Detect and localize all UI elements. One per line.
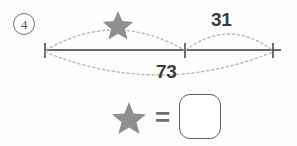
jump-arc-known [186,34,272,50]
star-icon-jump-label [103,11,133,40]
answer-equation-row: = [112,94,221,139]
star-icon-answer [112,100,146,134]
jump-label-31: 31 [211,9,232,31]
worksheet-problem-card: 4 31 73 = [0,0,297,146]
equals-sign: = [155,104,170,130]
jump-label-73: 73 [156,61,177,83]
answer-input-box[interactable] [179,94,221,139]
